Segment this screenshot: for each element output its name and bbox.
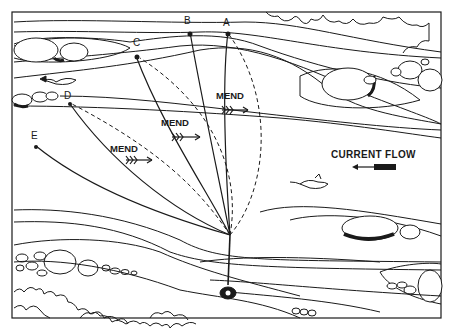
point-label-e: E (31, 131, 38, 141)
fly-marker-e (34, 145, 38, 149)
fish-icon (290, 174, 328, 189)
river-diagram (0, 0, 451, 331)
cast-line-b (190, 32, 230, 235)
fish-icon (40, 76, 76, 85)
mend-arrow-icon (126, 156, 152, 164)
fly-marker-d (68, 102, 72, 106)
mend-label: MEND (216, 91, 244, 101)
mend-arrow-icon (222, 106, 248, 114)
point-label-d: D (64, 91, 71, 101)
point-label-c: C (133, 38, 140, 48)
shoreline-foliage-bottom (14, 287, 196, 328)
cast-line-d (70, 104, 230, 235)
mend-arrow-icon (172, 133, 200, 141)
rock-lower-right (260, 207, 441, 240)
rocks-top-left (14, 38, 130, 62)
fly-marker-b (188, 32, 193, 37)
mend-line-a (230, 36, 261, 235)
mend-label: MEND (110, 144, 138, 154)
rocks-left-middle (12, 92, 58, 107)
shoreline-foliage-bottom-2 (14, 305, 188, 324)
rocks-bottom-middle (292, 308, 316, 316)
mend-label: MEND (161, 118, 189, 128)
cast-lines (36, 32, 230, 235)
current-flow-label: CURRENT FLOW (331, 150, 416, 160)
point-label-b: B (184, 16, 191, 26)
current-flow-arrow-icon (352, 164, 396, 170)
cast-line-a (225, 32, 230, 235)
fly-marker-c (135, 55, 140, 60)
angler-icon (220, 235, 236, 299)
mend-line-c (140, 58, 232, 235)
mend-lines (72, 36, 261, 235)
fly-marker-a (226, 32, 231, 37)
point-label-a: A (223, 18, 230, 28)
